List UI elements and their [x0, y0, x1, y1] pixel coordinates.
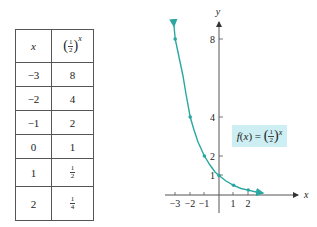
x-tick-label: 1	[231, 198, 236, 209]
y-axis-label: y	[215, 6, 221, 17]
x-tick-label: −3	[170, 198, 181, 209]
function-label: f(x) = (12)x	[232, 125, 287, 147]
x-tick-label: −1	[199, 198, 210, 209]
graph: −3 −2 −1 1 2 1 2 4 8 x y	[0, 0, 317, 227]
y-tick-label: 4	[210, 112, 215, 123]
y-tick-label: 8	[210, 34, 215, 45]
y-tick-label: 2	[210, 151, 215, 162]
y-ticks	[219, 39, 223, 175]
x-tick-label: −2	[185, 198, 196, 209]
x-tick-label: 2	[246, 198, 251, 209]
x-axis-label: x	[303, 189, 309, 200]
